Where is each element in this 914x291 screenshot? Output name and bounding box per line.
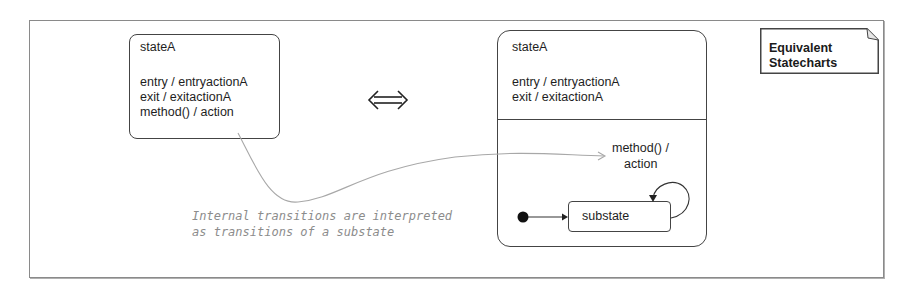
equivalence-arrow-icon — [369, 91, 407, 109]
initial-state-icon — [518, 212, 529, 223]
diagram-connectors — [0, 0, 914, 291]
annotation-connector — [238, 133, 604, 202]
self-transition-arrowhead-icon — [649, 195, 657, 202]
self-transition — [653, 183, 689, 218]
initial-arrowhead-icon — [562, 214, 568, 221]
